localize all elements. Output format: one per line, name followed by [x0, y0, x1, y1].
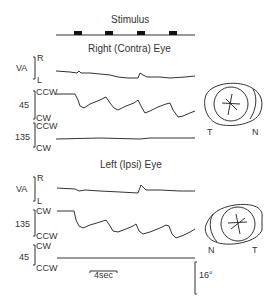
right-eye-title: Right (Contra) Eye — [88, 44, 171, 54]
left-eye-diagram — [205, 204, 262, 244]
right-135-bottom-label: CW — [36, 144, 51, 153]
time-scale-label: 4sec — [94, 271, 113, 280]
left-45-bottom-label: CCW — [36, 264, 58, 273]
right-eye-diagram — [205, 83, 262, 125]
left-135-trace — [57, 211, 195, 238]
left-diagram-right-label: T — [252, 246, 258, 255]
left-va-trace — [57, 185, 195, 193]
right-va-bottom-label: L — [37, 76, 42, 85]
left-45-label: 45 — [19, 253, 29, 262]
angle-scale-label: 16° — [199, 271, 213, 280]
right-diagram-right-label: N — [252, 128, 259, 137]
left-135-label: 135 — [15, 220, 30, 229]
left-va-top-label: R — [37, 174, 44, 183]
right-diagram-left-label: T — [207, 128, 213, 137]
left-135-top-label: CW — [36, 207, 51, 216]
right-135-trace — [56, 138, 195, 139]
right-45-top-label: CCW — [36, 88, 58, 97]
left-45-top-label: CW — [36, 242, 51, 251]
stimulus-pulses — [74, 31, 177, 35]
left-va-label: VA — [16, 185, 27, 194]
right-va-top-label: R — [37, 54, 44, 63]
angle-scale-bar — [195, 262, 197, 294]
right-va-trace — [56, 71, 195, 78]
right-45-trace — [56, 94, 195, 117]
left-va-bottom-label: L — [37, 197, 42, 206]
right-135-top-label: CCW — [36, 122, 58, 131]
left-eye-title: Left (Ipsi) Eye — [100, 160, 162, 170]
left-diagram-left-label: N — [208, 246, 215, 255]
right-45-label: 45 — [19, 101, 29, 110]
left-135-bottom-label: CCW — [36, 232, 58, 241]
right-135-label: 135 — [15, 133, 30, 142]
right-va-label: VA — [16, 64, 27, 73]
stimulus-title: Stimulus — [111, 15, 149, 25]
